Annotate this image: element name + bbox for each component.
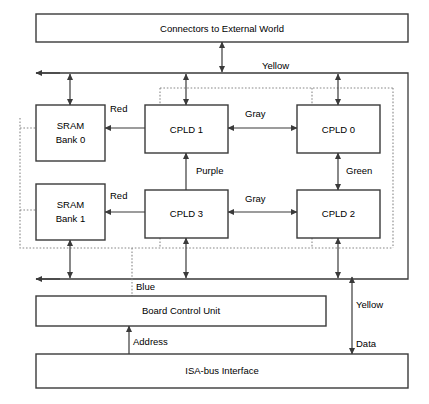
label-purple: Purple — [196, 165, 223, 176]
box-connectors: Connectors to External World — [36, 14, 408, 42]
box-sram-bank-0: SRAM Bank 0 — [36, 105, 105, 161]
box-cpld-3: CPLD 3 — [145, 190, 228, 238]
diagram-canvas: Connectors to External World SRAM Bank 0… — [0, 0, 429, 404]
cpld2-label: CPLD 2 — [322, 208, 355, 219]
connectors-label: Connectors to External World — [160, 23, 284, 34]
cpld0-label: CPLD 0 — [322, 124, 355, 135]
bottom-bus — [36, 238, 338, 279]
label-green: Green — [346, 165, 372, 176]
sram1-label-line2: Bank 1 — [56, 213, 86, 224]
label-yellow-top: Yellow — [262, 60, 289, 71]
block-diagram: Connectors to External World SRAM Bank 0… — [0, 0, 429, 404]
label-blue: Blue — [136, 281, 155, 292]
box-sram-bank-1: SRAM Bank 1 — [36, 184, 105, 240]
cpld1-label: CPLD 1 — [170, 124, 203, 135]
label-address: Address — [133, 336, 168, 347]
sram0-label-line2: Bank 0 — [56, 134, 86, 145]
box-board-control-unit: Board Control Unit — [36, 296, 326, 326]
label-red-top: Red — [110, 103, 127, 114]
sram0-label-line1: SRAM — [57, 120, 85, 131]
label-yellow-right: Yellow — [356, 299, 383, 310]
sram1-label-line1: SRAM — [57, 199, 85, 210]
label-data: Data — [356, 338, 377, 349]
box-cpld-0: CPLD 0 — [297, 105, 380, 153]
box-isa-bus-interface: ISA-bus Interface — [36, 354, 408, 388]
label-gray-top: Gray — [245, 108, 266, 119]
box-cpld-2: CPLD 2 — [297, 190, 380, 238]
bcu-label: Board Control Unit — [142, 305, 221, 316]
label-gray-bottom: Gray — [245, 193, 266, 204]
box-cpld-1: CPLD 1 — [145, 105, 228, 153]
label-red-bottom: Red — [110, 190, 127, 201]
cpld3-label: CPLD 3 — [170, 208, 203, 219]
isa-label: ISA-bus Interface — [185, 365, 258, 376]
